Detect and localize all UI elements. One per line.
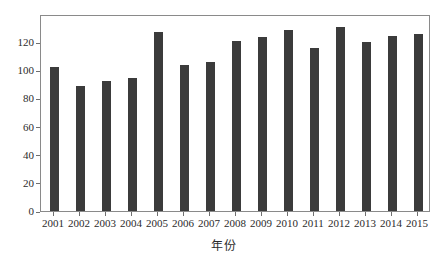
x-tick-mark — [313, 212, 314, 216]
x-tick-mark — [235, 212, 236, 216]
y-tick-mark — [36, 99, 40, 100]
y-tick-mark — [36, 127, 40, 128]
x-tick-mark — [261, 212, 262, 216]
x-tick-label: 2008 — [224, 217, 246, 230]
bar-rect — [102, 81, 111, 211]
bar-rect — [206, 62, 215, 211]
bar-rect — [336, 27, 345, 211]
y-tick-label: 120 — [18, 36, 35, 49]
x-tick-mark — [105, 212, 106, 216]
x-tick-mark — [209, 212, 210, 216]
bar-2006 — [171, 16, 197, 211]
x-tick-mark — [157, 212, 158, 216]
bar-2014 — [379, 16, 405, 211]
x-tick-label: 2015 — [406, 217, 428, 230]
y-tick-label: 60 — [23, 121, 34, 134]
x-tick-label: 2009 — [250, 217, 272, 230]
x-tick-mark — [79, 212, 80, 216]
bar-rect — [388, 36, 397, 211]
x-tick-mark — [417, 212, 418, 216]
bar-2003 — [93, 16, 119, 211]
bar-rect — [76, 86, 85, 211]
x-tick-label: 2010 — [276, 217, 298, 230]
x-tick-label: 2006 — [172, 217, 194, 230]
bar-2015 — [405, 16, 431, 211]
bar-rect — [258, 37, 267, 211]
bar-2008 — [223, 16, 249, 211]
y-tick-mark — [36, 183, 40, 184]
y-tick-label: 100 — [18, 64, 35, 77]
bar-2012 — [327, 16, 353, 211]
bar-rect — [232, 41, 241, 211]
x-tick-mark — [131, 212, 132, 216]
x-tick-label: 2005 — [146, 217, 168, 230]
bar-2009 — [249, 16, 275, 211]
y-tick-mark — [36, 71, 40, 72]
y-tick-mark — [36, 43, 40, 44]
x-tick-label: 2001 — [42, 217, 64, 230]
y-tick-mark — [36, 155, 40, 156]
x-tick-label: 2011 — [302, 217, 324, 230]
x-tick-mark — [183, 212, 184, 216]
bar-rect — [154, 32, 163, 211]
x-axis: 2001200220032004200520062007200820092010… — [40, 212, 430, 232]
bar-chart-figure: 020406080100120 200120022003200420052006… — [0, 0, 448, 265]
bar-rect — [50, 67, 59, 211]
bar-2007 — [197, 16, 223, 211]
x-tick-label: 2004 — [120, 217, 142, 230]
bar-2013 — [353, 16, 379, 211]
y-tick-label: 20 — [23, 177, 34, 190]
bar-2010 — [275, 16, 301, 211]
x-tick-mark — [391, 212, 392, 216]
x-tick-label: 2013 — [354, 217, 376, 230]
x-tick-mark — [339, 212, 340, 216]
x-tick-label: 2003 — [94, 217, 116, 230]
y-tick-label: 80 — [23, 92, 34, 105]
bar-rect — [180, 65, 189, 211]
bar-2005 — [145, 16, 171, 211]
y-tick-label: 0 — [29, 205, 35, 218]
bar-rect — [310, 48, 319, 211]
bar-2002 — [67, 16, 93, 211]
x-tick-label: 2014 — [380, 217, 402, 230]
y-axis: 020406080100120 — [0, 0, 40, 212]
y-tick-label: 40 — [23, 149, 34, 162]
x-tick-mark — [53, 212, 54, 216]
x-tick-label: 2002 — [68, 217, 90, 230]
x-tick-mark — [287, 212, 288, 216]
x-tick-label: 2007 — [198, 217, 220, 230]
x-tick-label: 2012 — [328, 217, 350, 230]
plot-frame — [40, 15, 430, 212]
x-tick-mark — [365, 212, 366, 216]
bars-layer — [41, 16, 429, 211]
bar-2001 — [41, 16, 67, 211]
bar-rect — [284, 30, 293, 211]
bar-rect — [414, 34, 423, 211]
bar-2011 — [301, 16, 327, 211]
x-axis-title: 年份 — [0, 236, 448, 254]
bar-2004 — [119, 16, 145, 211]
bar-rect — [362, 42, 371, 211]
bar-rect — [128, 78, 137, 211]
